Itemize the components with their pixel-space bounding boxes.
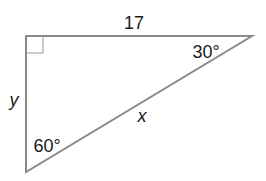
hypotenuse-label: x bbox=[137, 106, 148, 126]
left-side-label: y bbox=[8, 90, 20, 110]
angle-bottom-left-label: 60° bbox=[33, 136, 60, 156]
triangle-diagram: 17 30° y x 60° bbox=[0, 0, 266, 181]
right-angle-marker bbox=[26, 36, 43, 53]
top-side-label: 17 bbox=[124, 13, 144, 33]
angle-top-right-label: 30° bbox=[192, 42, 219, 62]
